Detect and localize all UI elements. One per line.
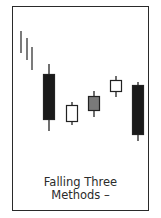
candle-2-bullish [67, 102, 78, 125]
caption-line-2: Methods – [12, 189, 149, 202]
candle-body [67, 106, 78, 122]
candle-3-neutral [89, 91, 100, 117]
candle-5-bearish [133, 82, 144, 141]
candle-body [111, 81, 122, 92]
candle-body [44, 75, 55, 120]
candle-body [133, 86, 144, 135]
candle-body [89, 97, 100, 111]
caption: Falling Three Methods – [12, 176, 149, 202]
candle-1-bearish [44, 64, 55, 131]
candle-4-bullish [111, 76, 122, 97]
